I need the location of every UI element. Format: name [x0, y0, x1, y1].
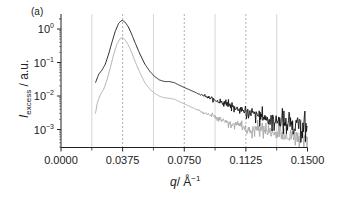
y-tick-label: 10−2 [34, 89, 54, 102]
x-tick-label: 0.0375 [106, 154, 140, 166]
y-tick-label: 10−3 [34, 123, 54, 136]
y-axis-label: Iexcess / a.u. [17, 60, 33, 118]
x-axis-label-sup: −1 [191, 174, 201, 183]
y-axis-label-unit: / a.u. [17, 60, 31, 90]
y-major-ticks: 10010−110−210−3 [34, 22, 61, 136]
axes: 10010−110−210−3 0.00000.03750.07500.1125… [34, 14, 325, 166]
panel-label: (a) [31, 6, 43, 17]
x-tick-label: 0.0750 [167, 154, 201, 166]
x-axis-label: q/ Å−1 [170, 174, 201, 189]
y-axis-label-sub: excess [24, 90, 33, 115]
x-axis-label-unit: / Å [177, 174, 192, 189]
series-black-curve [96, 20, 308, 142]
saxs-excess-intensity-chart: 10010−110−210−3 0.00000.03750.07500.1125… [0, 0, 342, 199]
y-tick-label: 10−1 [34, 56, 54, 69]
series-gray-curve [96, 38, 308, 148]
reference-lines [92, 14, 277, 148]
x-tick-label: 0.1500 [291, 154, 325, 166]
x-tick-label: 0.1125 [229, 154, 262, 166]
y-tick-label: 100 [38, 22, 54, 35]
x-major-ticks: 0.00000.03750.07500.11250.1500 [44, 148, 324, 167]
x-tick-label: 0.0000 [44, 154, 78, 166]
data-series [96, 20, 308, 147]
